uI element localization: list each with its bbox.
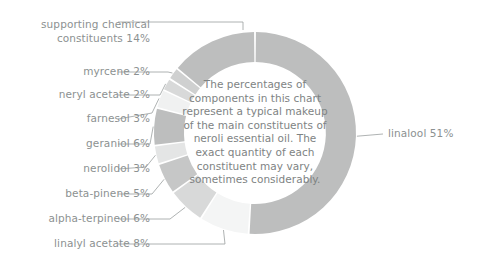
slice-label-beta-pinene: beta-pinene 5% — [0, 187, 150, 201]
chart-canvas: supporting chemical constituents 14% myr… — [0, 0, 481, 265]
slice-label-nerolidol: nerolidol 3% — [0, 162, 150, 176]
slice-label-geraniol: geraniol 6% — [0, 137, 150, 151]
slice-label-supporting-chemical-constituents: supporting chemical constituents 14% — [0, 18, 150, 45]
slice-label-linalyl-acetate: linalyl acetate 8% — [0, 237, 150, 251]
slice-label-alpha-terpineol: alpha-terpineol 6% — [0, 212, 150, 226]
slice-label-neryl-acetate: neryl acetate 2% — [0, 88, 150, 102]
slice-label-farnesol: farnesol 3% — [0, 112, 150, 126]
leader-line-linalool — [357, 134, 383, 136]
center-annotation: The percentages of components in this ch… — [181, 78, 329, 187]
slice-label-linalool: linalool 51% — [388, 127, 453, 141]
slice-label-myrcene: myrcene 2% — [0, 65, 150, 79]
